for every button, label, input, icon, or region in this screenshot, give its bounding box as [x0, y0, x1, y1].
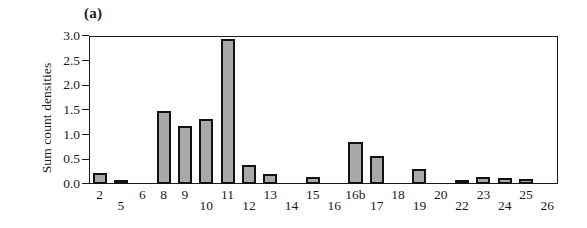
- x-axis-tick-label: 16b: [345, 188, 365, 202]
- x-axis-tick-label: 23: [477, 188, 491, 202]
- x-axis-tick-label: 16: [327, 199, 341, 213]
- bar: [93, 173, 107, 184]
- bar: [370, 156, 384, 184]
- x-axis-tick-label: 26: [541, 199, 555, 213]
- x-axis-tick-label: 5: [118, 199, 125, 213]
- y-axis-tick: [82, 134, 89, 135]
- y-axis-tick: [82, 85, 89, 86]
- bar: [476, 177, 490, 184]
- bar: [263, 174, 277, 184]
- x-axis-tick-label: 15: [306, 188, 320, 202]
- panel-label: (a): [84, 6, 102, 21]
- y-axis-tick-label: 3.0: [38, 29, 80, 43]
- y-axis-tick: [82, 109, 89, 110]
- x-axis-tick-label: 11: [221, 188, 234, 202]
- x-axis-tick-label: 14: [285, 199, 299, 213]
- x-axis-tick-label: 8: [160, 188, 167, 202]
- y-axis-tick-label: 0.5: [38, 152, 80, 166]
- y-axis-tick-label: 1.0: [38, 128, 80, 142]
- x-axis-tick-label: 12: [242, 199, 256, 213]
- y-axis-tick: [82, 35, 89, 36]
- bar-chart-figure: (a) Sum count densities 0.00.51.01.52.02…: [0, 0, 587, 228]
- x-axis-tick-label: 19: [413, 199, 427, 213]
- x-axis-tick-label: 13: [263, 188, 277, 202]
- x-axis-tick-label: 20: [434, 188, 448, 202]
- x-axis-tick-label: 6: [139, 188, 146, 202]
- y-axis-tick-label: 2.5: [38, 54, 80, 68]
- x-axis-tick-label: 25: [519, 188, 533, 202]
- x-axis-tick-label: 9: [182, 188, 189, 202]
- x-axis-tick-labels: 256891011121314151616b171819202223242526: [89, 184, 558, 226]
- x-axis-tick-label: 2: [96, 188, 103, 202]
- bar: [157, 111, 171, 184]
- bar: [242, 165, 256, 184]
- x-axis-tick-label: 17: [370, 199, 384, 213]
- bar: [221, 39, 235, 184]
- y-axis-tick-label: 2.0: [38, 78, 80, 92]
- y-axis-tick: [82, 159, 89, 160]
- x-axis-tick-label: 18: [391, 188, 405, 202]
- y-axis-tick-label: 1.5: [38, 103, 80, 117]
- bar: [199, 119, 213, 184]
- bar: [306, 177, 320, 184]
- y-axis-tick-label: 0.0: [38, 177, 80, 191]
- bar: [348, 142, 362, 184]
- bars-layer: [89, 36, 558, 184]
- x-axis-tick-label: 10: [200, 199, 214, 213]
- bar: [412, 169, 426, 184]
- x-axis-tick-label: 24: [498, 199, 512, 213]
- x-axis-tick-label: 22: [455, 199, 469, 213]
- y-axis-tick: [82, 183, 89, 184]
- bar: [178, 126, 192, 184]
- y-axis-tick: [82, 60, 89, 61]
